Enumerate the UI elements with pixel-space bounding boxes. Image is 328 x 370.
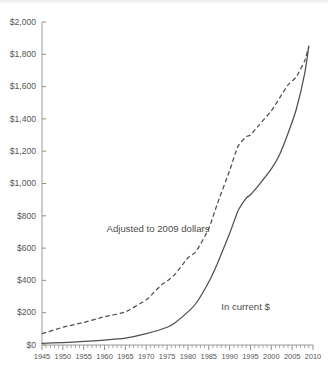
x-tick-label-1965: 1965	[117, 352, 133, 361]
x-tick-label-1955: 1955	[75, 352, 91, 361]
series-annotations: Adjusted to 2009 dollarsIn current $	[107, 223, 271, 312]
series-line-adjusted-2009-dollars	[42, 46, 309, 333]
y-tick-label-2000: $2,000	[10, 17, 37, 27]
x-tick-label-1950: 1950	[55, 352, 71, 361]
x-tick-label-2005: 2005	[284, 352, 300, 361]
x-tick-label-1970: 1970	[138, 352, 154, 361]
x-axis-labels: 1945195019551960196519701975198019851990…	[34, 352, 321, 361]
line-chart: $0$200$400$600$800$1,000$1,200$1,400$1,6…	[0, 0, 328, 370]
current-series-label: In current $	[221, 301, 270, 312]
y-tick-label-1800: $1,800	[10, 49, 37, 59]
scan-artifact-band	[0, 0, 328, 4]
y-tick-label-600: $600	[17, 243, 36, 253]
series-line-in-current-dollars	[42, 46, 309, 343]
y-axis-tick-group	[42, 22, 46, 345]
y-tick-label-200: $200	[17, 307, 36, 317]
chart-container: $0$200$400$600$800$1,000$1,200$1,400$1,6…	[0, 0, 328, 370]
x-tick-label-1945: 1945	[34, 352, 50, 361]
x-tick-label-1990: 1990	[221, 352, 237, 361]
x-tick-label-1985: 1985	[201, 352, 217, 361]
y-tick-label-1400: $1,400	[10, 114, 37, 124]
y-tick-label-1000: $1,000	[10, 178, 37, 188]
y-tick-label-800: $800	[17, 211, 36, 221]
y-tick-label-1200: $1,200	[10, 146, 37, 156]
data-series-group	[42, 46, 309, 343]
x-tick-label-1975: 1975	[159, 352, 175, 361]
x-tick-label-2010: 2010	[305, 352, 321, 361]
y-tick-label-400: $400	[17, 275, 36, 285]
adjusted-series-label: Adjusted to 2009 dollars	[107, 223, 210, 234]
axis-lines	[42, 22, 313, 345]
x-tick-label-1960: 1960	[96, 352, 112, 361]
y-tick-label-0: $0	[26, 340, 36, 350]
x-tick-label-1980: 1980	[180, 352, 196, 361]
x-tick-label-1995: 1995	[242, 352, 258, 361]
y-axis-labels: $0$200$400$600$800$1,000$1,200$1,400$1,6…	[10, 17, 37, 350]
x-tick-label-2000: 2000	[263, 352, 279, 361]
x-axis-tick-group	[42, 345, 313, 350]
y-tick-label-1600: $1,600	[10, 81, 37, 91]
